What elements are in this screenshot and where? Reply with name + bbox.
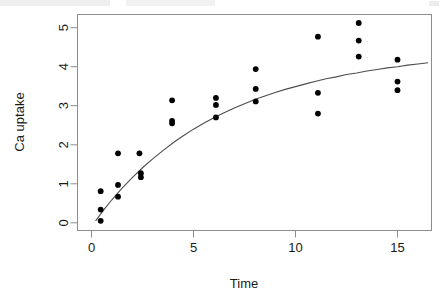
y-ticklabel-0: 0 xyxy=(57,219,72,226)
scatter-plot: 5 4 3 2 1 0 0 5 10 15 Time Ca uptake xyxy=(0,0,443,308)
data-point xyxy=(315,34,321,40)
data-point xyxy=(138,174,144,180)
data-point xyxy=(395,57,401,63)
data-point xyxy=(356,38,362,44)
data-point xyxy=(356,20,362,26)
data-point xyxy=(253,66,259,72)
data-point xyxy=(115,182,121,188)
data-points-group xyxy=(98,20,401,224)
data-point xyxy=(115,150,121,156)
y-ticklabel-5: 5 xyxy=(57,24,72,31)
data-point xyxy=(213,115,219,121)
data-point xyxy=(356,54,362,60)
data-point xyxy=(98,188,104,194)
x-ticklabel-0: 0 xyxy=(88,240,95,255)
data-point xyxy=(169,97,175,103)
y-ticklabel-1: 1 xyxy=(57,180,72,187)
figure-canvas: 5 4 3 2 1 0 0 5 10 15 Time Ca uptake xyxy=(0,0,443,308)
data-point xyxy=(137,150,143,156)
data-point xyxy=(253,99,259,105)
plot-frame xyxy=(78,15,432,231)
data-point xyxy=(253,86,259,92)
fitted-curve xyxy=(96,63,429,221)
data-point xyxy=(213,102,219,108)
y-ticklabel-2: 2 xyxy=(57,141,72,148)
x-axis-label: Time xyxy=(230,276,258,291)
data-point xyxy=(315,111,321,117)
data-point xyxy=(395,79,401,85)
data-point xyxy=(115,194,121,200)
data-point xyxy=(395,87,401,93)
data-point xyxy=(169,120,175,126)
data-point xyxy=(213,95,219,101)
data-point xyxy=(98,218,104,224)
y-axis-label: Ca uptake xyxy=(12,92,27,151)
data-point xyxy=(315,90,321,96)
data-point xyxy=(98,207,104,213)
x-ticklabel-5: 5 xyxy=(190,240,197,255)
y-axis: 5 4 3 2 1 0 xyxy=(57,24,78,226)
x-ticklabel-15: 15 xyxy=(390,240,404,255)
y-ticklabel-3: 3 xyxy=(57,102,72,109)
x-axis: 0 5 10 15 xyxy=(88,231,405,256)
x-ticklabel-10: 10 xyxy=(288,240,302,255)
y-ticklabel-4: 4 xyxy=(57,63,72,70)
